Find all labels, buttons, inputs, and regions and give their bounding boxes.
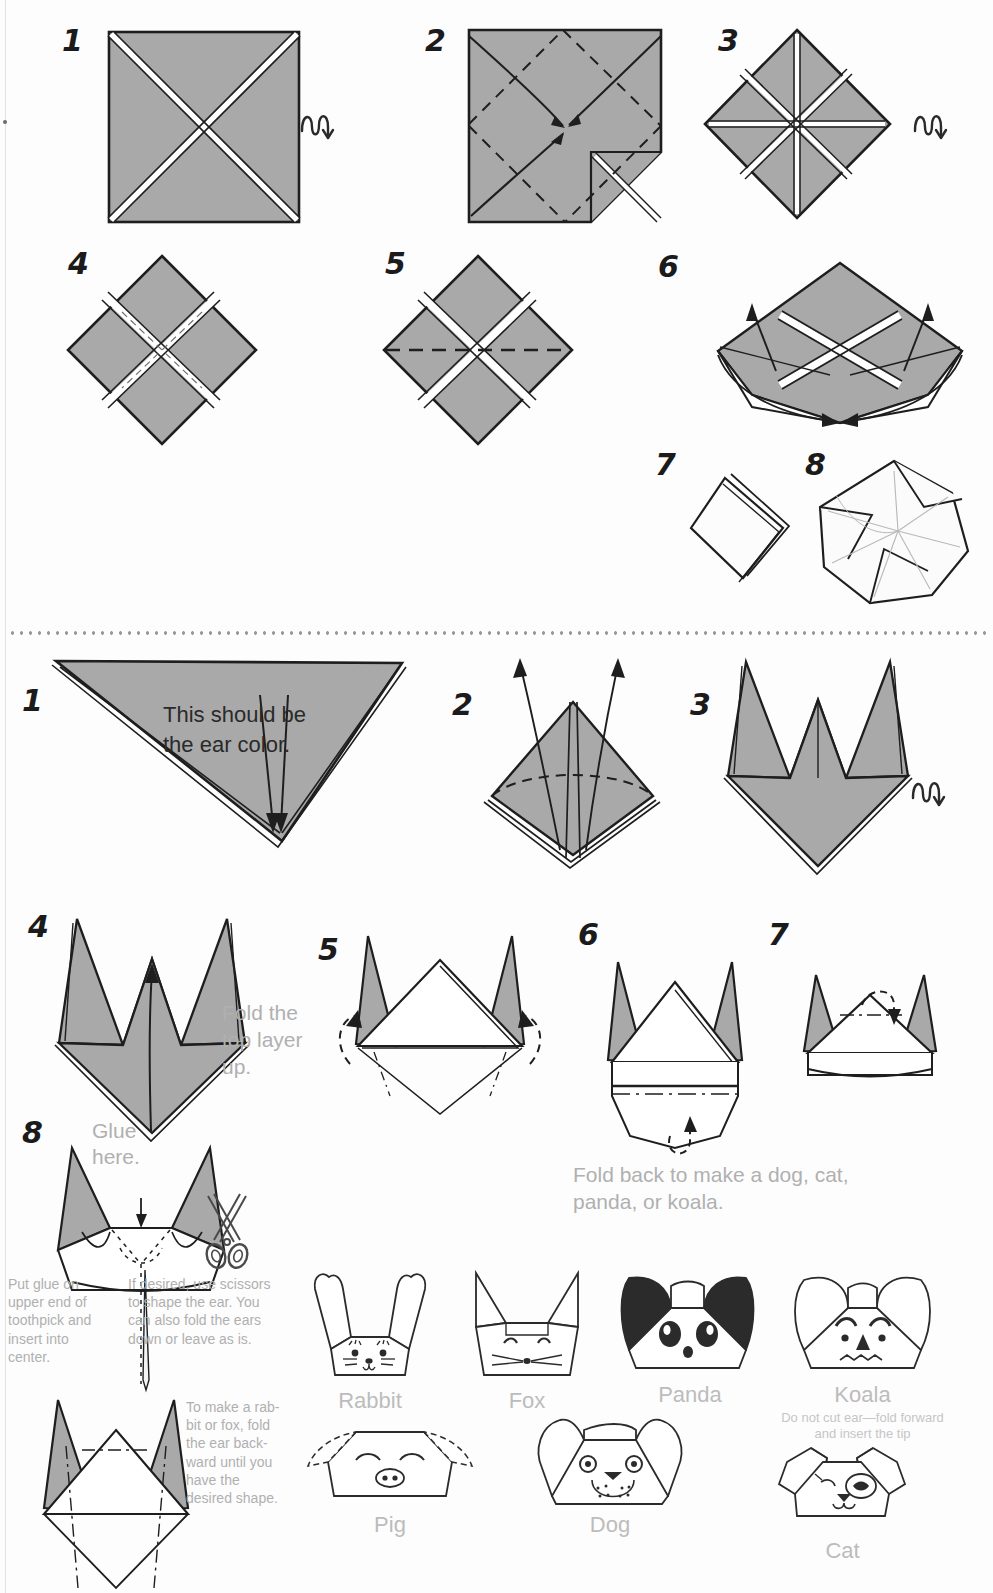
figure-s1-step4 (62, 250, 262, 450)
figure-s1-step1 (105, 28, 305, 228)
animal-label-cat: Cat (760, 1538, 925, 1564)
ear-color-note: This should be the ear color. (163, 700, 393, 759)
animal-label-koala: Koala (790, 1382, 935, 1408)
step-number-1-2: 2 (425, 26, 445, 56)
rabbit-fox-note: To make a rab- bit or fox, fold the ear … (186, 1398, 304, 1507)
page-edge-line (5, 0, 6, 1593)
step-number-2-3: 3 (690, 690, 710, 720)
fold-top-layer-note: Fold the top layer up. (222, 1000, 332, 1081)
figure-s2-step6 (592, 950, 757, 1165)
animal-label-rabbit: Rabbit (285, 1388, 455, 1414)
figure-s2-step3 (718, 648, 918, 878)
animal-label-pig: Pig (300, 1512, 480, 1538)
koala-subcaption: Do not cut ear—fold forward and insert t… (735, 1410, 990, 1443)
step-number-2-6: 6 (578, 920, 598, 950)
section-divider (8, 630, 986, 636)
figure-animal-koala (790, 1272, 935, 1372)
scissors-icon (198, 1190, 256, 1275)
figure-s2-step5 (330, 928, 550, 1118)
figure-animal-pig (300, 1418, 480, 1508)
figure-rabbit-fox-fold (22, 1390, 212, 1593)
figure-animal-dog (530, 1410, 690, 1510)
flip-over-icon (908, 770, 956, 814)
animal-label-panda: Panda (610, 1382, 770, 1408)
figure-s1-step2 (465, 26, 670, 231)
step-number-1-6: 6 (658, 252, 678, 282)
glue-toothpick-note: Put glue on upper end of toothpick and i… (8, 1275, 116, 1366)
fold-back-note: Fold back to make a dog, cat, panda, or … (573, 1162, 973, 1216)
figure-animal-rabbit (305, 1265, 435, 1380)
figure-s1-step3 (700, 24, 895, 224)
figure-animal-fox (462, 1265, 592, 1380)
page-edge-dot (3, 120, 7, 124)
figure-s1-step5 (378, 250, 578, 450)
flip-over-icon (297, 103, 345, 147)
step-number-1-7: 7 (655, 450, 675, 480)
figure-s1-step6 (700, 255, 980, 430)
step-number-2-7: 7 (768, 920, 788, 950)
origami-instruction-page: 1 2 (0, 0, 993, 1593)
animal-label-dog: Dog (520, 1512, 700, 1538)
figure-s1-step7 (683, 470, 793, 585)
figure-animal-cat (765, 1440, 920, 1530)
step-number-2-2: 2 (452, 690, 472, 720)
step-number-1-1: 1 (62, 26, 82, 56)
step-number-2-8: 8 (22, 1118, 42, 1148)
flip-over-icon (910, 103, 958, 147)
figure-animal-panda (615, 1272, 760, 1372)
step-number-2-1: 1 (22, 686, 42, 716)
glue-here-label: Glue here. (92, 1118, 192, 1171)
figure-s2-step2 (478, 650, 668, 870)
figure-s2-step7 (790, 965, 950, 1100)
scissors-note: If desired, use scissors to shape the ea… (128, 1275, 303, 1348)
figure-s1-step8 (812, 455, 977, 610)
